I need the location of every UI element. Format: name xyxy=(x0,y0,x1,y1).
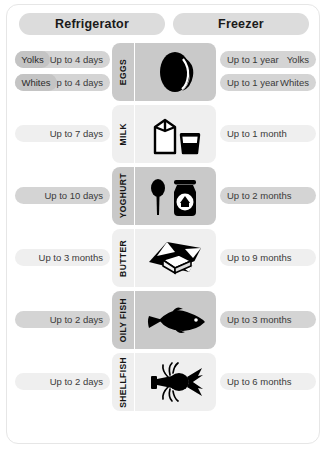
fish-icon xyxy=(135,291,216,349)
header-refrigerator-label: Refrigerator xyxy=(55,17,129,31)
food-rows: Up to 4 daysYolksUp to 4 daysWhitesEGGS … xyxy=(7,41,320,413)
freezer-duration-pill: Up to 9 months xyxy=(220,249,316,266)
freezer-duration-pill: Up to 1 month xyxy=(220,125,316,142)
lobster-icon xyxy=(135,353,216,411)
food-row: Up to 2 daysSHELLFISH Up to 6 months xyxy=(7,351,320,413)
refrigerator-cell: Up to 7 days xyxy=(7,103,112,165)
food-icon-cell: EGGS xyxy=(112,43,216,101)
egg-part-label: Whites xyxy=(280,77,316,88)
food-name-tab: BUTTER xyxy=(112,229,134,287)
food-icon-cell: MILK xyxy=(112,105,216,163)
refrigerator-duration-text: Up to 4 days xyxy=(50,74,103,91)
butter-block-icon xyxy=(135,229,216,287)
food-row: Up to 3 monthsBUTTER Up to 9 months xyxy=(7,227,320,289)
refrigerator-duration-text: Up to 4 days xyxy=(50,51,103,68)
food-icon-cell: OILY FISH xyxy=(112,291,216,349)
food-icon-cell: BUTTER xyxy=(112,229,216,287)
food-name-tab: MILK xyxy=(112,105,134,163)
refrigerator-duration-pill: Up to 2 days xyxy=(15,311,110,328)
column-headers: Refrigerator Freezer xyxy=(7,13,320,35)
food-icon-cell: YOGHURT xyxy=(112,167,216,225)
refrigerator-cell: Up to 3 months xyxy=(7,227,112,289)
refrigerator-cell: Up to 2 days xyxy=(7,289,112,351)
food-row: Up to 4 daysYolksUp to 4 daysWhitesEGGS … xyxy=(7,41,320,103)
egg-icon xyxy=(135,43,216,101)
freezer-cell: Up to 2 months xyxy=(216,165,320,227)
food-name-tab: SHELLFISH xyxy=(112,353,134,411)
freezer-duration-pill: Up to 1 yearWhites xyxy=(220,74,316,91)
refrigerator-cell: Up to 10 days xyxy=(7,165,112,227)
refrigerator-duration-pill: Up to 4 daysWhites xyxy=(15,74,110,91)
egg-part-label: Yolks xyxy=(287,54,316,65)
header-freezer: Freezer xyxy=(173,13,309,35)
header-freezer-label: Freezer xyxy=(218,17,264,31)
food-icon-cell: SHELLFISH xyxy=(112,353,216,411)
freezer-duration-pill: Up to 6 months xyxy=(220,373,316,390)
refrigerator-cell: Up to 2 days xyxy=(7,351,112,413)
food-name-tab: EGGS xyxy=(112,43,134,101)
freezer-duration-text: Up to 1 year xyxy=(227,77,279,88)
freezer-cell: Up to 9 months xyxy=(216,227,320,289)
food-name-label: BUTTER xyxy=(118,240,128,277)
food-name-label: MILK xyxy=(118,123,128,145)
food-name-tab: YOGHURT xyxy=(112,167,134,225)
refrigerator-duration-pill: Up to 2 days xyxy=(15,373,110,390)
refrigerator-duration-pill: Up to 10 days xyxy=(15,187,110,204)
egg-part-label: Yolks xyxy=(15,51,50,68)
freezer-cell: Up to 1 month xyxy=(216,103,320,165)
food-row: Up to 2 daysOILY FISH Up to 3 months xyxy=(7,289,320,351)
freezer-duration-pill: Up to 2 months xyxy=(220,187,316,204)
food-row: Up to 7 daysMILK Up to 1 month xyxy=(7,103,320,165)
yoghurt-jar-icon xyxy=(135,167,216,225)
refrigerator-duration-pill: Up to 7 days xyxy=(15,125,110,142)
header-refrigerator: Refrigerator xyxy=(19,13,165,35)
freezer-cell: Up to 6 months xyxy=(216,351,320,413)
refrigerator-cell: Up to 4 daysYolksUp to 4 daysWhites xyxy=(7,41,112,103)
freezer-duration-pill: Up to 3 months xyxy=(220,311,316,328)
food-name-label: OILY FISH xyxy=(118,298,128,342)
food-name-label: SHELLFISH xyxy=(118,357,128,408)
food-name-label: YOGHURT xyxy=(118,173,128,218)
refrigerator-duration-pill: Up to 4 daysYolks xyxy=(15,51,110,68)
food-row: Up to 10 daysYOGHURT Up to 2 months xyxy=(7,165,320,227)
milk-carton-icon xyxy=(135,105,216,163)
freezer-cell: Up to 1 yearYolksUp to 1 yearWhites xyxy=(216,41,320,103)
freezer-duration-text: Up to 1 year xyxy=(227,54,279,65)
freezer-duration-pill: Up to 1 yearYolks xyxy=(220,51,316,68)
food-name-tab: OILY FISH xyxy=(112,291,134,349)
freezer-cell: Up to 3 months xyxy=(216,289,320,351)
food-name-label: EGGS xyxy=(118,59,128,85)
storage-times-card: Refrigerator Freezer Up to 4 daysYolksUp… xyxy=(6,4,320,444)
refrigerator-duration-pill: Up to 3 months xyxy=(15,249,110,266)
egg-part-label: Whites xyxy=(15,74,57,91)
